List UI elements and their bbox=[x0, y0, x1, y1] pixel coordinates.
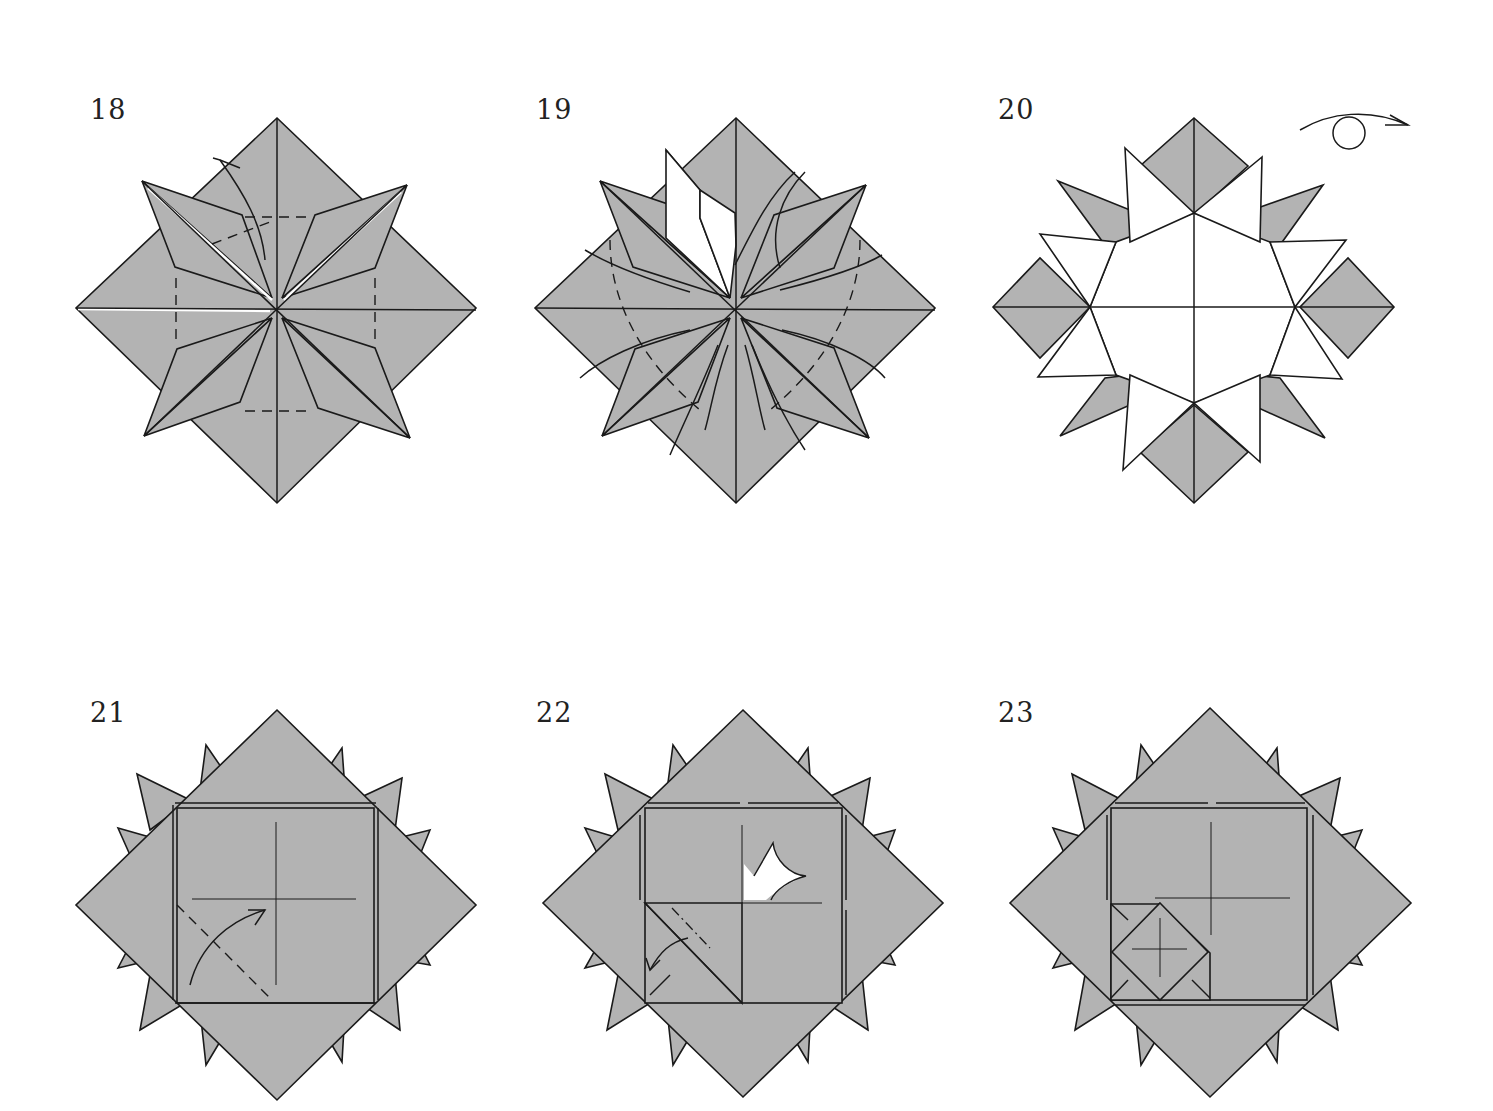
step-18: 18 bbox=[62, 92, 522, 532]
step-19-diagram bbox=[508, 92, 968, 532]
step-23-diagram bbox=[970, 695, 1430, 1111]
step-20: 20 bbox=[970, 92, 1430, 532]
turn-over-icon bbox=[1300, 114, 1408, 149]
step-21-diagram bbox=[62, 695, 522, 1111]
step-22: 22 bbox=[508, 695, 968, 1111]
step-23: 23 bbox=[970, 695, 1430, 1111]
step-20-diagram bbox=[970, 92, 1430, 532]
step-19: 19 bbox=[508, 92, 968, 532]
step-22-diagram bbox=[508, 695, 968, 1111]
step-21: 21 bbox=[62, 695, 522, 1111]
step-18-diagram bbox=[62, 92, 522, 532]
